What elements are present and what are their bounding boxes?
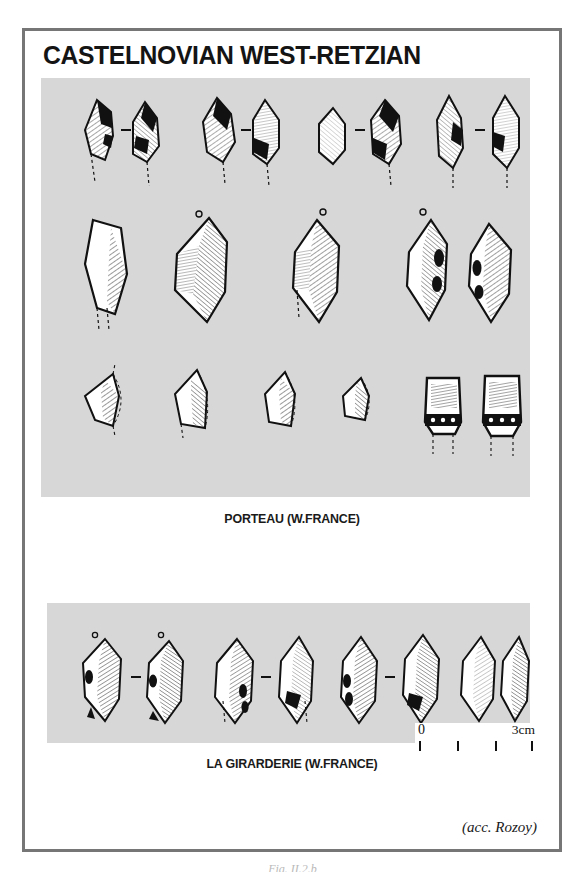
artifact-g-row-c <box>215 639 253 723</box>
page-title: CASTELNOVIAN WEST-RETZIAN <box>43 41 421 70</box>
artifact-g-row-h <box>501 637 529 721</box>
figure-frame: CASTELNOVIAN WEST-RETZIAN <box>22 28 562 852</box>
artifact-g-row-f <box>403 635 439 723</box>
artifact-g-row-b <box>147 632 183 723</box>
artifact-g-row-e <box>341 637 377 723</box>
artifact-g-row-g <box>461 637 495 721</box>
artifact-row3-a <box>85 364 121 436</box>
artifact-row1-d <box>253 100 279 186</box>
girarderie-artifact-drawings <box>47 603 530 743</box>
artifact-row1-e <box>319 108 345 164</box>
attribution-label: (acc. Rozoy) <box>462 819 537 836</box>
scale-tick-0 <box>419 741 421 751</box>
artifact-plate-porteau <box>41 78 530 497</box>
figure-number-caption: Fig. II.2.b <box>0 862 585 872</box>
plate-caption-porteau: PORTEAU (W.FRANCE) <box>46 511 537 526</box>
artifact-row1-f <box>371 100 401 186</box>
plate-caption-girarderie: LA GIRARDERIE (W.FRANCE) <box>46 756 537 771</box>
scale-max-label: 3cm <box>512 722 535 738</box>
artifact-row1-g <box>437 96 463 188</box>
artifact-row3-d <box>343 378 369 420</box>
artifact-g-row-a <box>83 632 121 721</box>
artifact-row1-c <box>203 98 235 184</box>
artifact-row3-e <box>425 378 461 454</box>
scale-tick-2 <box>495 741 497 751</box>
artifact-g-row-d <box>279 637 313 723</box>
scale-tick-1 <box>457 741 459 751</box>
artifact-row3-f <box>483 376 521 456</box>
artifact-row2-d <box>407 209 447 320</box>
scale-min-label: 0 <box>418 722 425 738</box>
scale-bar: 0 3cm <box>415 723 537 756</box>
artifact-row2-c <box>293 209 339 322</box>
scale-bar-labels: 0 3cm <box>415 723 537 740</box>
artifact-row3-c <box>265 372 295 426</box>
scale-tick-3 <box>531 741 533 751</box>
scale-bar-ticks <box>415 741 537 753</box>
figure-page: CASTELNOVIAN WEST-RETZIAN <box>0 0 585 880</box>
artifact-row2-a <box>85 220 127 330</box>
artifact-plate-girarderie <box>47 603 530 743</box>
porteau-artifact-drawings <box>41 78 530 497</box>
artifact-row1-b <box>133 102 159 186</box>
artifact-row2-b <box>175 211 227 322</box>
artifact-row2-e <box>469 224 511 322</box>
artifact-row3-b <box>175 370 208 438</box>
artifact-row1-a <box>85 100 113 182</box>
artifact-row1-h <box>492 96 519 188</box>
